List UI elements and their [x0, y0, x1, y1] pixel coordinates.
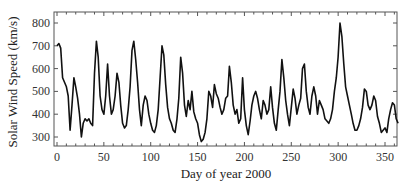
x-tick-label: 200 — [235, 150, 253, 164]
solar-wind-chart: 300400500600700800 050100150200250300350… — [0, 0, 416, 187]
y-tick-label: 600 — [32, 62, 50, 76]
y-axis-title: Solar Wind Speed (km/s) — [5, 16, 20, 147]
x-axis-title: Day of year 2000 — [181, 166, 272, 181]
y-tick-label: 500 — [32, 84, 50, 98]
x-tick-label: 300 — [329, 150, 347, 164]
y-tick-label: 400 — [32, 107, 50, 121]
solar-wind-speed-line — [57, 23, 398, 142]
x-tick-label: 250 — [282, 150, 300, 164]
y-tick-label: 300 — [32, 130, 50, 144]
x-tick-label: 350 — [376, 150, 394, 164]
y-tick-label: 700 — [32, 39, 50, 53]
x-tick-label: 0 — [54, 150, 60, 164]
x-tick-label: 100 — [142, 150, 160, 164]
y-tick-label: 800 — [32, 16, 50, 30]
x-tick-label: 50 — [98, 150, 110, 164]
x-axis-ticks: 050100150200250300350 — [54, 12, 394, 164]
x-tick-label: 150 — [189, 150, 207, 164]
